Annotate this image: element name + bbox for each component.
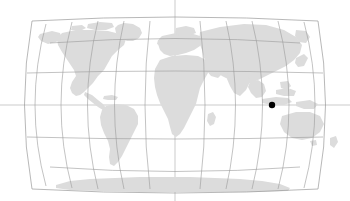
land-europe [158, 33, 204, 56]
land-south-america [100, 104, 138, 166]
land-southeast-asia [248, 80, 266, 98]
land-madagascar [207, 112, 216, 126]
land-antarctica [56, 177, 290, 192]
land-arctic-islands [87, 22, 114, 30]
land-new-zealand [330, 136, 338, 148]
land-india [227, 71, 250, 96]
land-tasmania [310, 140, 317, 146]
world-map-svg [0, 0, 350, 201]
land-australia [280, 112, 324, 140]
world-map-container [0, 0, 350, 201]
land-africa [154, 55, 210, 137]
land-north-america [57, 30, 126, 96]
location-marker-icon[interactable] [269, 102, 275, 108]
land-indonesia-1 [262, 97, 292, 105]
land-caribbean [103, 95, 118, 100]
landmass-group [38, 22, 338, 192]
